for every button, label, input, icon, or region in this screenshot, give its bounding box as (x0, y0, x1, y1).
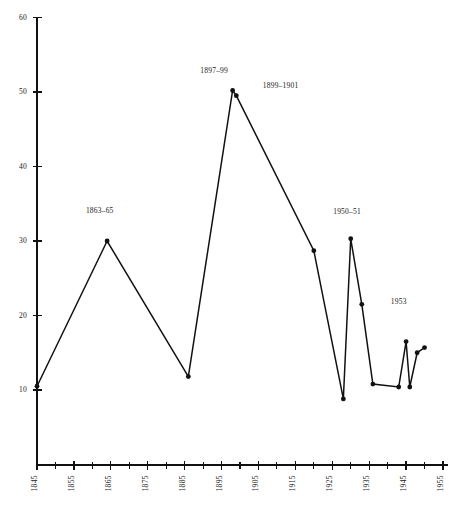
x-axis-tick-label: 1895 (215, 475, 224, 492)
data-point-marker (370, 382, 375, 387)
y-axis-tick-label: 50 (19, 87, 27, 96)
data-annotation-label: 1899–1901 (263, 81, 299, 90)
data-annotations: 1863–651897–991899–19011950–511953 (86, 66, 407, 306)
x-axis-tick-label: 1855 (67, 475, 76, 492)
data-point-marker (404, 339, 409, 344)
data-point-marker (35, 384, 40, 389)
data-point-marker (186, 374, 191, 379)
series-line (37, 91, 425, 399)
data-point-marker (415, 350, 420, 355)
x-axis-tick-labels: 1845185518651875188518951905191519251935… (30, 475, 445, 492)
x-axis-tick-label: 1955 (436, 475, 445, 492)
y-axis-tick-label: 10 (19, 385, 27, 394)
data-point-marker (230, 88, 235, 93)
data-annotation-label: 1953 (391, 297, 407, 306)
data-point-marker (407, 385, 412, 390)
x-axis-tick-label: 1935 (362, 475, 371, 492)
y-axis-tick-label: 20 (19, 311, 27, 320)
data-point-marker (422, 345, 427, 350)
x-axis-tick-label: 1925 (325, 475, 334, 492)
data-point-marker (396, 385, 401, 390)
data-annotation-label: 1897–99 (200, 66, 228, 75)
x-axis-tick-label: 1945 (399, 475, 408, 492)
data-annotation-label: 1863–65 (86, 206, 114, 215)
x-axis-tick-label: 1915 (288, 475, 297, 492)
data-point-marker (234, 93, 239, 98)
data-point-marker (341, 397, 346, 402)
x-axis-tick-label: 1885 (178, 475, 187, 492)
data-point-marker (348, 236, 353, 241)
data-point-marker (359, 302, 364, 307)
line-chart-plot: 102030405060 184518551865187518851895190… (0, 0, 458, 505)
data-point-marker (311, 248, 316, 253)
y-axis-tick-label: 60 (19, 13, 27, 22)
y-axis-tick-label: 30 (19, 236, 27, 245)
x-axis-tick-label: 1875 (141, 475, 150, 492)
data-series (37, 91, 425, 399)
axes (37, 18, 448, 466)
chart-container: 102030405060 184518551865187518851895190… (0, 0, 458, 505)
data-annotation-label: 1950–51 (333, 207, 361, 216)
y-axis-tick-label: 40 (19, 162, 27, 171)
x-axis-tick-label: 1905 (251, 475, 260, 492)
data-point-marker (105, 239, 110, 244)
x-axis-tick-label: 1845 (30, 475, 39, 492)
x-axis-tick-label: 1865 (104, 475, 113, 492)
y-axis-tick-labels: 102030405060 (19, 13, 27, 395)
